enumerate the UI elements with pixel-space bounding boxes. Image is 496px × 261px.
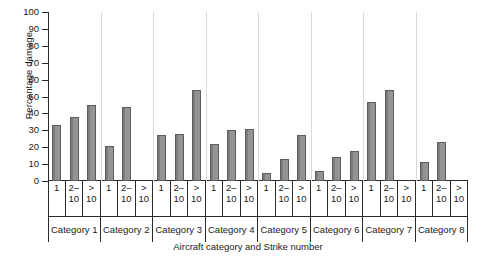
y-axis-tick-label: 20 [28, 142, 39, 152]
plot-area: 0102030405060708090100 [48, 12, 468, 181]
bar [350, 151, 359, 181]
strike-number-label: >10 [136, 181, 154, 216]
x-axis-title: Aircraft category and Strike number [0, 241, 496, 252]
strike-number-text: 1 [369, 183, 374, 194]
strike-number-text: 1 [159, 183, 164, 194]
strike-number-label: 1 [153, 181, 171, 216]
bar [332, 157, 341, 181]
strike-number-text: 1 [106, 183, 111, 194]
strike-number-text: 2–10 [173, 183, 184, 204]
strike-number-label: >10 [346, 181, 364, 216]
category-label-text: Category 8 [418, 224, 464, 235]
strike-number-text: 1 [54, 183, 59, 194]
strike-number-label: >10 [188, 181, 206, 216]
bar [315, 171, 324, 181]
strike-number-text: >10 [86, 183, 97, 204]
strike-number-text: 2–10 [383, 183, 394, 204]
strike-number-label: 1 [206, 181, 224, 216]
bar [262, 173, 271, 181]
strike-number-label: 2–10 [223, 181, 241, 216]
strike-number-text: >10 [296, 183, 307, 204]
strike-number-label-band: 12–10>1012–10>1012–10>1012–10>1012–10>10… [48, 181, 468, 216]
y-axis-tick-label: 60 [28, 75, 39, 85]
strike-number-label: 2–10 [381, 181, 399, 216]
strike-number-text: 1 [421, 183, 426, 194]
bar [367, 102, 376, 181]
strike-number-text: >10 [191, 183, 202, 204]
category-label-text: Category 4 [208, 224, 254, 235]
bar [280, 159, 289, 181]
strike-number-label: 2–10 [433, 181, 451, 216]
y-axis-tick-label: 10 [28, 159, 39, 169]
strike-number-label: 2–10 [276, 181, 294, 216]
category-label-text: Category 5 [261, 224, 307, 235]
category-label: Category 7 [363, 216, 416, 242]
bar [420, 162, 429, 181]
strike-number-text: 2–10 [121, 183, 132, 204]
y-axis-tick-label: 50 [28, 92, 39, 102]
bar [70, 117, 79, 181]
bar [105, 146, 114, 181]
strike-number-text: >10 [348, 183, 359, 204]
bar [210, 144, 219, 181]
strike-number-text: 1 [211, 183, 216, 194]
category-label-text: Category 6 [313, 224, 359, 235]
bar [245, 129, 254, 181]
bar-series [48, 12, 468, 181]
strike-number-text: 2–10 [68, 183, 79, 204]
category-label: Category 8 [416, 216, 469, 242]
category-label: Category 1 [48, 216, 101, 242]
strike-number-label: 2–10 [328, 181, 346, 216]
strike-number-label: 1 [258, 181, 276, 216]
strike-number-label: 2–10 [66, 181, 84, 216]
category-label: Category 6 [311, 216, 364, 242]
strike-number-text: >10 [453, 183, 464, 204]
bar [297, 135, 306, 181]
y-axis-tick-label: 90 [28, 24, 39, 34]
strike-number-label: 1 [101, 181, 119, 216]
y-axis-tick-label: 100 [23, 7, 39, 17]
strike-number-label: >10 [241, 181, 259, 216]
category-label-text: Category 2 [103, 224, 149, 235]
bar [87, 105, 96, 181]
strike-number-text: >10 [401, 183, 412, 204]
strike-number-label: >10 [83, 181, 101, 216]
y-axis-tick-label: 30 [28, 126, 39, 136]
strike-number-text: 2–10 [436, 183, 447, 204]
bar [122, 107, 131, 181]
category-label-text: Category 3 [156, 224, 202, 235]
strike-number-text: 2–10 [331, 183, 342, 204]
category-label: Category 5 [258, 216, 311, 242]
strike-number-label: 1 [48, 181, 66, 216]
bar-chart-figure: Percentage damage 0102030405060708090100… [0, 0, 496, 261]
strike-number-label: 1 [416, 181, 434, 216]
category-label: Category 3 [153, 216, 206, 242]
strike-number-text: 2–10 [278, 183, 289, 204]
y-axis-tick-label: 80 [28, 41, 39, 51]
category-label-band: Category 1Category 2Category 3Category 4… [48, 216, 468, 242]
strike-number-label: >10 [293, 181, 311, 216]
strike-number-text: 1 [316, 183, 321, 194]
strike-number-text: >10 [138, 183, 149, 204]
strike-number-label: 2–10 [171, 181, 189, 216]
strike-number-label: 1 [311, 181, 329, 216]
bar [437, 142, 446, 181]
category-label-text: Category 7 [366, 224, 412, 235]
bar [157, 135, 166, 181]
strike-number-text: 1 [264, 183, 269, 194]
strike-number-text: 2–10 [226, 183, 237, 204]
bar [192, 90, 201, 181]
strike-number-label: >10 [398, 181, 416, 216]
category-label-text: Category 1 [51, 224, 97, 235]
strike-number-text: >10 [243, 183, 254, 204]
category-label: Category 4 [206, 216, 259, 242]
bar [52, 125, 61, 181]
bar [227, 130, 236, 181]
category-label: Category 2 [101, 216, 154, 242]
strike-number-label: 1 [363, 181, 381, 216]
strike-number-label: 2–10 [118, 181, 136, 216]
y-axis-tick-label: 0 [34, 176, 39, 186]
y-axis-tick-label: 40 [28, 109, 39, 119]
y-axis-tick-label: 70 [28, 58, 39, 68]
bar [175, 134, 184, 181]
